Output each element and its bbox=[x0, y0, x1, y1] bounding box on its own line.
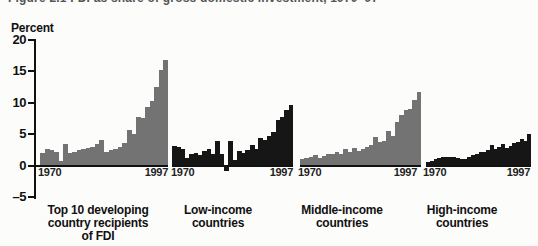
y-tick-label: –5 bbox=[0, 192, 26, 202]
panel-baseline bbox=[172, 165, 293, 167]
x-label-end-high: 1997 bbox=[507, 166, 530, 178]
x-label-end-low: 1997 bbox=[270, 166, 293, 178]
y-tick-label: 20 bbox=[0, 35, 26, 45]
y-tick bbox=[28, 102, 35, 104]
caption-high-income: High-income countries bbox=[387, 204, 537, 230]
x-label-start-high: 1970 bbox=[423, 166, 446, 178]
caption-line: of FDI bbox=[23, 230, 173, 243]
y-tick bbox=[28, 165, 35, 167]
y-axis-line bbox=[34, 39, 36, 199]
caption-line: countries bbox=[387, 217, 537, 230]
y-tick-label: 0 bbox=[0, 161, 26, 171]
bar-1997 bbox=[289, 105, 294, 165]
bar-1997 bbox=[417, 92, 422, 165]
y-tick-label: 5 bbox=[0, 129, 26, 139]
y-tick-label: 10 bbox=[0, 98, 26, 108]
x-label-end-middle: 1997 bbox=[394, 166, 417, 178]
y-tick bbox=[28, 196, 35, 198]
y-tick bbox=[28, 133, 35, 135]
panel-baseline bbox=[300, 165, 421, 167]
figure-page: Figure 2.1 FDI as share of gross domesti… bbox=[0, 0, 538, 246]
bar-1997 bbox=[527, 134, 531, 165]
panel-baseline bbox=[426, 165, 531, 167]
x-label-end-top10: 1997 bbox=[145, 166, 168, 178]
y-tick-label: 15 bbox=[0, 66, 26, 76]
panel-baseline bbox=[35, 165, 168, 167]
x-label-start-middle: 1970 bbox=[298, 166, 321, 178]
x-label-start-low: 1970 bbox=[171, 166, 194, 178]
bar-1997 bbox=[163, 60, 168, 165]
x-label-start-top10: 1970 bbox=[38, 166, 61, 178]
y-tick bbox=[28, 39, 35, 41]
y-tick bbox=[28, 70, 35, 72]
